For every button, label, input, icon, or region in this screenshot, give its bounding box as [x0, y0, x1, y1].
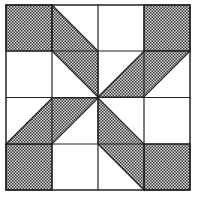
corner-square-top-left	[6, 5, 52, 51]
corner-square-bottom-right	[144, 144, 190, 190]
quilt-block-diagram	[0, 0, 199, 200]
corner-square-bottom-left	[6, 144, 52, 190]
corner-square-top-right	[144, 5, 190, 51]
